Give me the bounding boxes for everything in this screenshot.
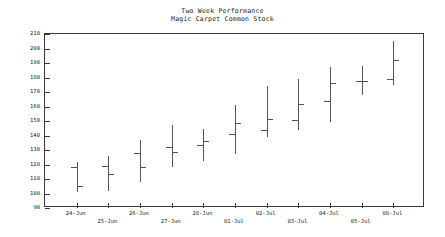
x-tick-mark: [108, 203, 109, 208]
x-tick-mark: [362, 203, 363, 208]
y-tick-label: 200: [18, 45, 40, 51]
x-tick-label: 04-Jul: [309, 210, 349, 216]
ohlc-close-tick: [203, 141, 209, 142]
ohlc-high-low-line: [203, 129, 204, 161]
x-tick-label: 26-Jun: [119, 210, 159, 216]
ohlc-high-low-line: [330, 67, 331, 121]
ohlc-open-tick: [292, 120, 298, 121]
x-tick-mark: [393, 203, 394, 208]
plot-area: [44, 33, 424, 207]
ohlc-close-tick: [393, 60, 399, 61]
y-tick-mark: [45, 49, 50, 50]
y-tick-mark: [45, 208, 50, 209]
y-tick-label: 160: [18, 103, 40, 109]
y-tick-label: 130: [18, 146, 40, 152]
chart-title: Two Week Performance: [0, 7, 445, 15]
y-tick-label: 110: [18, 175, 40, 181]
ohlc-close-tick: [362, 81, 368, 82]
y-tick-mark: [45, 34, 50, 35]
y-tick-label: 180: [18, 74, 40, 80]
ohlc-open-tick: [134, 153, 140, 154]
x-tick-mark: [235, 203, 236, 208]
x-tick-label: 05-Jul: [341, 218, 381, 224]
x-tick-label: 28-Jun: [182, 210, 222, 216]
y-tick-label: 100: [18, 190, 40, 196]
ohlc-high-low-line: [77, 162, 78, 192]
y-tick-label: 210: [18, 30, 40, 36]
x-tick-mark: [77, 203, 78, 208]
chart-title-block: Two Week Performance Magic Carpet Common…: [0, 7, 445, 23]
x-tick-mark: [203, 203, 204, 208]
ohlc-open-tick: [166, 147, 172, 148]
ohlc-close-tick: [267, 119, 273, 120]
ohlc-close-tick: [330, 83, 336, 84]
y-tick-mark: [45, 194, 50, 195]
ohlc-close-tick: [298, 104, 304, 105]
x-tick-label: 01-Jul: [214, 218, 254, 224]
ohlc-close-tick: [140, 167, 146, 168]
ohlc-open-tick: [71, 167, 77, 168]
y-tick-mark: [45, 136, 50, 137]
y-tick-mark: [45, 150, 50, 151]
x-tick-mark: [330, 203, 331, 208]
y-tick-mark: [45, 165, 50, 166]
y-tick-label: 90: [18, 204, 40, 210]
ohlc-open-tick: [197, 145, 203, 146]
x-tick-mark: [172, 203, 173, 208]
y-tick-label: 150: [18, 117, 40, 123]
x-tick-label: 25-Jun: [87, 218, 127, 224]
chart-subtitle: Magic Carpet Common Stock: [0, 15, 445, 23]
y-tick-mark: [45, 121, 50, 122]
ohlc-chart: Two Week Performance Magic Carpet Common…: [0, 0, 445, 237]
x-tick-label: 24-Jun: [56, 210, 96, 216]
y-tick-label: 190: [18, 59, 40, 65]
ohlc-open-tick: [229, 134, 235, 135]
y-tick-label: 140: [18, 132, 40, 138]
ohlc-high-low-line: [298, 79, 299, 130]
ohlc-high-low-line: [140, 140, 141, 182]
ohlc-close-tick: [77, 186, 83, 187]
ohlc-open-tick: [102, 166, 108, 167]
x-tick-label: 02-Jul: [246, 210, 286, 216]
y-tick-mark: [45, 92, 50, 93]
y-tick-label: 120: [18, 161, 40, 167]
x-tick-label: 08-Jul: [372, 210, 412, 216]
ohlc-open-tick: [324, 101, 330, 102]
ohlc-high-low-line: [393, 41, 394, 85]
y-tick-mark: [45, 63, 50, 64]
y-tick-mark: [45, 107, 50, 108]
ohlc-close-tick: [172, 152, 178, 153]
ohlc-open-tick: [261, 130, 267, 131]
ohlc-close-tick: [235, 123, 241, 124]
ohlc-close-tick: [108, 174, 114, 175]
ohlc-high-low-line: [267, 86, 268, 137]
ohlc-open-tick: [387, 79, 393, 80]
ohlc-high-low-line: [172, 125, 173, 167]
y-tick-mark: [45, 179, 50, 180]
x-tick-mark: [298, 203, 299, 208]
ohlc-high-low-line: [235, 105, 236, 154]
x-tick-mark: [140, 203, 141, 208]
x-tick-mark: [267, 203, 268, 208]
y-tick-label: 170: [18, 88, 40, 94]
x-tick-label: 27-Jun: [151, 218, 191, 224]
y-tick-mark: [45, 78, 50, 79]
x-tick-label: 03-Jul: [277, 218, 317, 224]
